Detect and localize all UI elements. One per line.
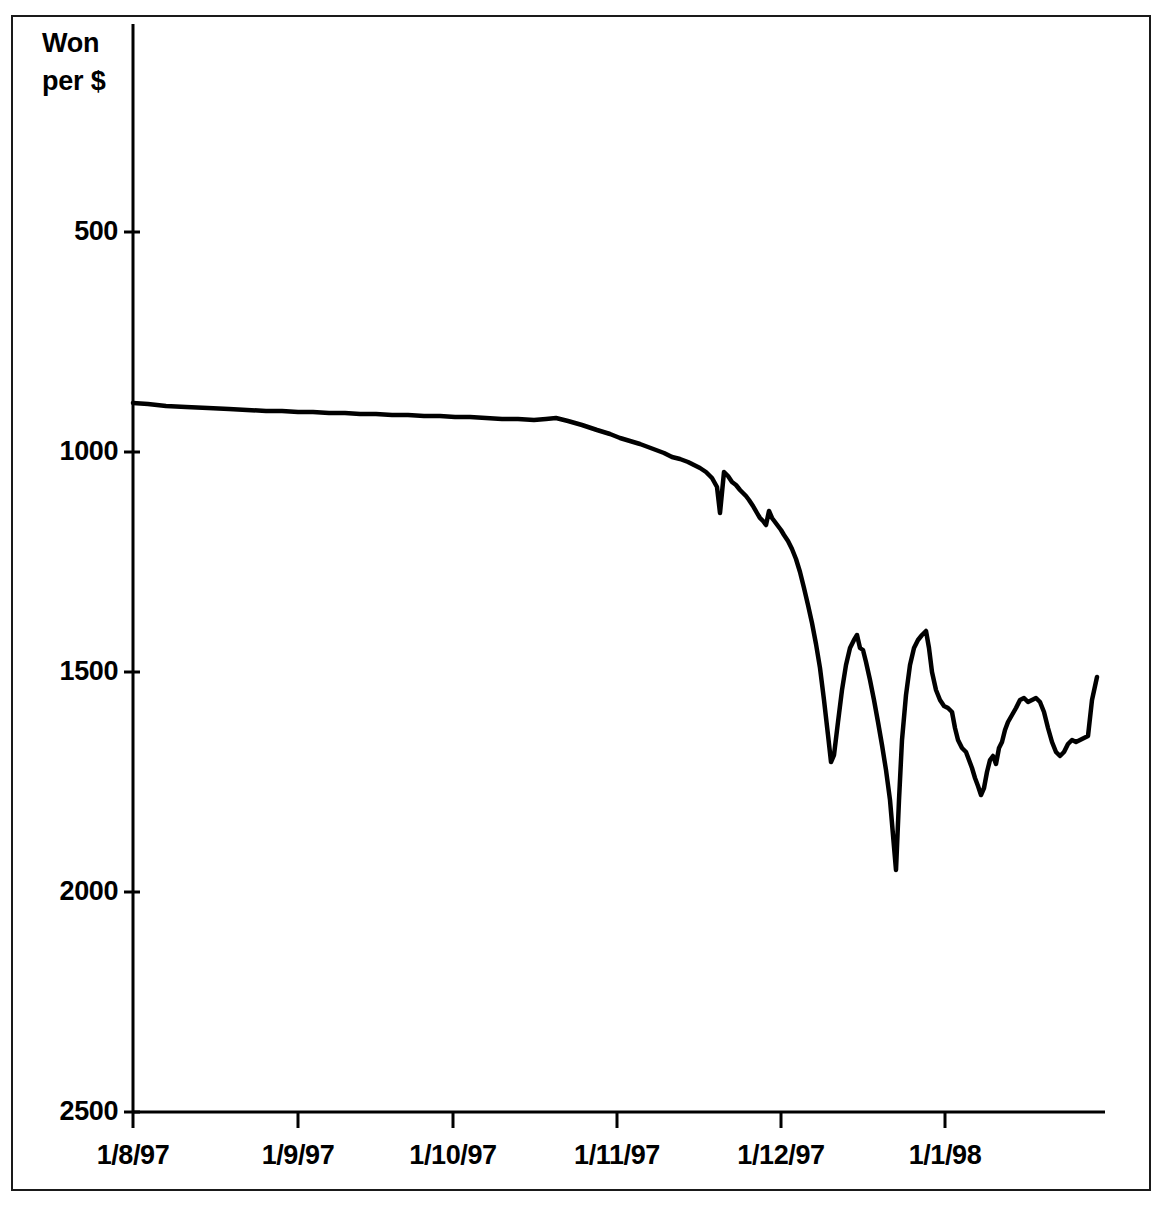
- y-tick-label-500: 500: [8, 216, 118, 247]
- x-axis-ticks: [133, 1112, 945, 1128]
- y-tick-label-2000: 2000: [8, 876, 118, 907]
- x-tick-label-1-10-97: 1/10/97: [363, 1140, 543, 1171]
- line-chart-canvas: [0, 0, 1163, 1206]
- x-tick-label-1-12-97: 1/12/97: [691, 1140, 871, 1171]
- x-tick-label-1-9-97: 1/9/97: [208, 1140, 388, 1171]
- x-tick-label-1-11-97: 1/11/97: [527, 1140, 707, 1171]
- y-tick-label-1500: 1500: [8, 656, 118, 687]
- y-axis-title-line2: per $: [42, 66, 106, 96]
- y-axis-title-line1: Won: [42, 28, 99, 58]
- chart-axes: [133, 24, 1105, 1112]
- y-axis-title: Wonper $: [42, 24, 106, 101]
- x-tick-label-1-1-98: 1/1/98: [855, 1140, 1035, 1171]
- y-tick-label-1000: 1000: [8, 436, 118, 467]
- y-tick-label-2500: 2500: [8, 1096, 118, 1127]
- x-tick-label-1-8-97: 1/8/97: [43, 1140, 223, 1171]
- exchange-rate-data-line: [133, 403, 1097, 870]
